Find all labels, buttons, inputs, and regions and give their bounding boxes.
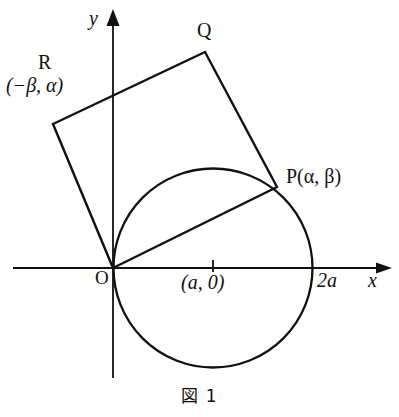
- circle-center-label: (a, 0): [181, 272, 224, 292]
- x-intercept-label-2a: 2a: [317, 270, 337, 290]
- x-axis-arrowhead: [376, 263, 392, 274]
- x-axis-label: x: [368, 270, 377, 290]
- point-label-q: Q: [197, 20, 211, 40]
- y-axis-label: y: [89, 8, 98, 28]
- figure-container: y x O Q R (−β, α) P(α, β) (a, 0) 2a 図 1: [0, 0, 399, 417]
- figure-caption: 図 1: [0, 388, 399, 405]
- y-axis-arrowhead: [107, 9, 120, 26]
- y-axis: [107, 9, 120, 378]
- square-outline: [53, 52, 277, 268]
- point-label-r: R: [38, 52, 63, 72]
- point-label-r-group: R (−β, α): [6, 52, 63, 95]
- origin-label: O: [95, 268, 109, 287]
- point-label-p: P(α, β): [286, 166, 341, 186]
- point-coords-r: (−β, α): [6, 75, 63, 95]
- square-opqr: [53, 52, 277, 268]
